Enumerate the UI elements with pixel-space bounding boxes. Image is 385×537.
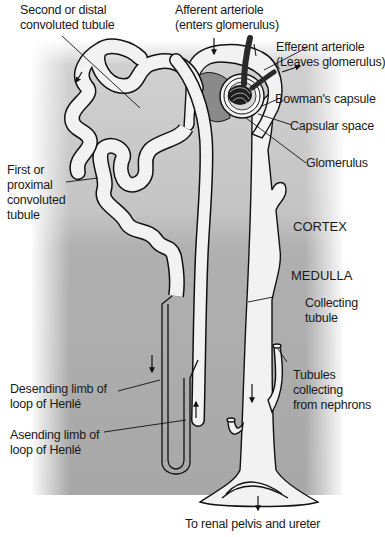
- label-proximal-tubule: First or proximal convoluted tubule: [7, 163, 65, 223]
- region-medulla: MEDULLA: [291, 268, 352, 283]
- label-renal-pelvis: To renal pelvis and ureter: [185, 517, 320, 532]
- label-efferent-arteriole: Efferent arteriole (Leaves glomerulus): [276, 40, 385, 70]
- label-afferent-arteriole: Afferent arteriole (enters glomerulus): [175, 3, 279, 33]
- label-capsular-space: Capsular space: [290, 119, 374, 134]
- label-distal-tubule: Second or distal convoluted tubule: [20, 3, 115, 33]
- region-cortex: CORTEX: [293, 219, 347, 234]
- label-collecting-tubule: Collecting tubule: [305, 296, 358, 326]
- label-descending-limb: Desending limb of loop of Henlé: [10, 382, 107, 412]
- label-tubules-collecting: Tubules collecting from nephrons: [293, 368, 371, 413]
- label-bowmans-capsule: Bowman's capsule: [275, 92, 376, 107]
- label-glomerulus: Glomerulus: [306, 156, 368, 171]
- label-ascending-limb: Asending limb of loop of Henlé: [10, 428, 99, 458]
